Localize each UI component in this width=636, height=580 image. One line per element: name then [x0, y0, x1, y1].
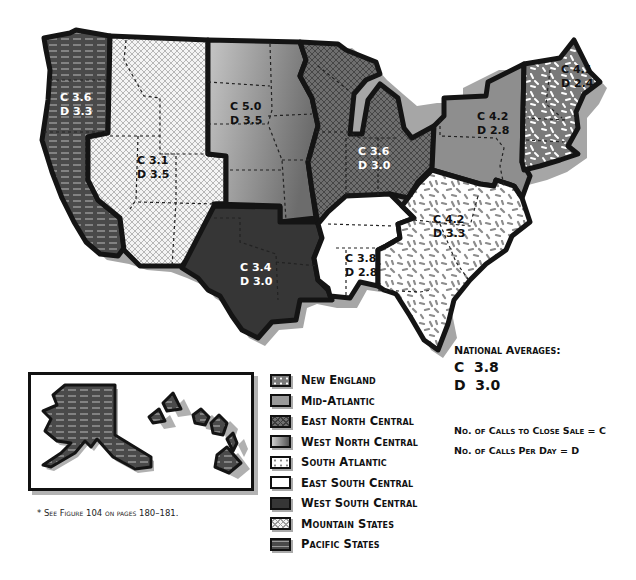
abbreviation-key: No. of Calls to Close Sale = C No. of Ca…	[454, 421, 606, 461]
legend-item-east-south-central: East South Central	[270, 473, 418, 494]
national-average-d: D 3.0	[454, 377, 561, 393]
label-wsc-c: C 3.4	[240, 261, 272, 274]
swatch-mid-atlantic	[270, 394, 291, 407]
key-c-definition: No. of Calls to Close Sale = C	[454, 421, 606, 441]
label-wnc-d: D 3.5	[230, 114, 262, 127]
legend-item-west-south-central: West South Central	[270, 493, 418, 514]
label-wnc-c: C 5.0	[230, 100, 262, 113]
legend: New England Mid-Atlantic East North Cent…	[270, 370, 418, 555]
label-sa-c: C 4.2	[433, 213, 464, 226]
label-pacific-d: D 3.3	[60, 105, 92, 118]
legend-label: New England	[301, 373, 376, 387]
swatch-east-south-central	[270, 476, 291, 489]
alaska-shape	[43, 385, 151, 469]
label-ma-c: C 4.2	[477, 110, 508, 123]
label-wsc-d: D 3.0	[240, 275, 273, 288]
label-ma-d: D 2.8	[477, 124, 509, 137]
legend-label: South Atlantic	[301, 455, 387, 469]
swatch-south-atlantic	[270, 456, 291, 469]
legend-item-mountain-states: Mountain States	[270, 514, 418, 535]
label-sa-d: D 3.3	[433, 227, 465, 240]
label-enc-c: C 3.6	[358, 145, 390, 158]
label-esc-d: D 2.8	[345, 266, 377, 279]
legend-label: West South Central	[301, 496, 417, 510]
swatch-mountain-states	[270, 517, 291, 530]
legend-item-new-england: New England	[270, 370, 418, 391]
swatch-west-north-central	[270, 435, 291, 448]
label-pacific-c: C 3.6	[60, 91, 92, 104]
legend-label: Pacific States	[301, 537, 380, 551]
label-mountain-d: D 3.5	[137, 168, 169, 181]
footnote: * See Figure 104 on pages 180–181.	[37, 508, 178, 518]
legend-item-south-atlantic: South Atlantic	[270, 452, 418, 473]
legend-item-east-north-central: East North Central	[270, 411, 418, 432]
swatch-east-north-central	[270, 415, 291, 428]
national-averages-title: National Averages:	[454, 344, 561, 357]
label-esc-c: C 3.8	[345, 252, 376, 265]
national-average-c: C 3.8	[454, 359, 561, 375]
swatch-new-england	[270, 374, 291, 387]
legend-item-pacific-states: Pacific States	[270, 534, 418, 555]
label-mountain-c: C 3.1	[137, 154, 168, 167]
legend-label: Mountain States	[301, 517, 394, 531]
legend-label: East South Central	[301, 476, 413, 490]
alaska-hawaii-inset	[28, 372, 254, 491]
label-enc-d: D 3.0	[358, 159, 391, 172]
swatch-west-south-central	[270, 497, 291, 510]
key-d-definition: No. of Calls Per Day = D	[454, 441, 606, 461]
legend-label: West North Central	[301, 435, 418, 449]
legend-label: Mid-Atlantic	[301, 394, 375, 408]
national-averages: National Averages: C 3.8 D 3.0	[454, 344, 561, 393]
legend-label: East North Central	[301, 414, 414, 428]
swatch-pacific-states	[270, 538, 291, 551]
label-ne-d: D 2.4	[561, 77, 594, 90]
label-ne-c: C 4.1	[561, 63, 592, 76]
legend-item-mid-atlantic: Mid-Atlantic	[270, 391, 418, 412]
legend-item-west-north-central: West North Central	[270, 432, 418, 453]
